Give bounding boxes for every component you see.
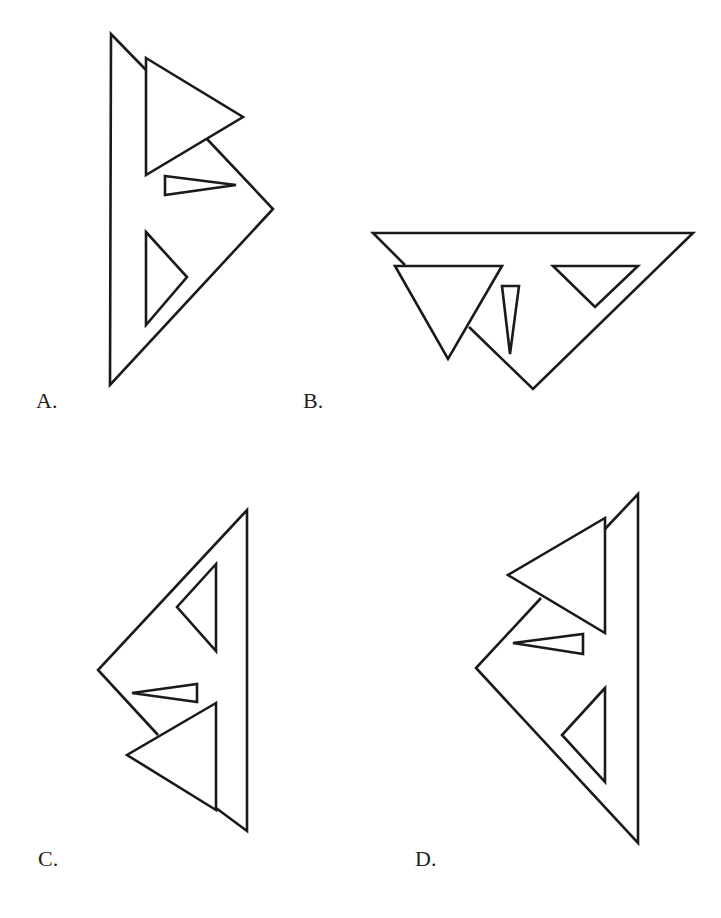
thin-triangle-shape [502, 286, 519, 354]
thin-triangle-shape [165, 176, 236, 195]
thin-triangle-shape [132, 684, 197, 702]
option-label-b[interactable]: B. [303, 390, 323, 412]
option-label-c[interactable]: C. [38, 848, 58, 870]
thin-triangle-shape [513, 634, 583, 654]
option-figure-b[interactable] [373, 233, 693, 389]
option-label-d[interactable]: D. [415, 848, 436, 870]
lower-triangle-shape [146, 232, 187, 325]
top-triangle-shape [146, 58, 243, 175]
lower-triangle-shape [127, 703, 216, 810]
option-figure-c[interactable] [98, 510, 247, 831]
option-figure-a[interactable] [110, 34, 273, 385]
figure-canvas [0, 0, 721, 918]
option-label-a[interactable]: A. [36, 390, 57, 412]
option-figure-d[interactable] [476, 494, 638, 843]
upper-triangle-shape [508, 518, 605, 633]
